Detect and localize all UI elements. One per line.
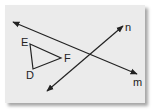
triangle-def bbox=[30, 44, 61, 69]
label-e: E bbox=[21, 36, 28, 48]
label-f: F bbox=[64, 52, 71, 64]
label-d: D bbox=[26, 69, 34, 81]
geometry-diagram: m n E F D bbox=[0, 0, 157, 111]
label-n: n bbox=[125, 21, 131, 33]
label-m: m bbox=[133, 76, 142, 88]
